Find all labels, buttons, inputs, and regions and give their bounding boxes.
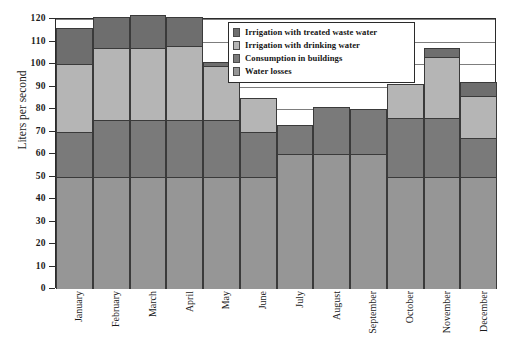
y-tick-label: 100 — [8, 58, 46, 68]
x-tick-label: June — [257, 291, 268, 309]
bar-segment[interactable] — [166, 17, 203, 46]
y-tick-label: 10 — [8, 261, 46, 271]
x-axis-labels: JanuaryFebruaryMarchAprilMayJuneJulyAugu… — [55, 289, 496, 349]
x-tick: March — [129, 289, 166, 349]
y-tick-label: 80 — [8, 103, 46, 113]
bar-segment[interactable] — [130, 15, 167, 49]
bar-segment[interactable] — [93, 177, 130, 290]
bar-segment[interactable] — [424, 57, 461, 118]
legend-item-label: Irrigation with drinking water — [245, 40, 360, 50]
x-tick-label: August — [331, 291, 342, 320]
legend-item[interactable]: Irrigation with treated waste water — [233, 26, 410, 38]
y-tick-label: 110 — [8, 36, 46, 46]
bar-segment[interactable] — [313, 107, 350, 154]
x-tick: October — [386, 289, 423, 349]
bar-segment[interactable] — [387, 118, 424, 177]
x-tick: December — [459, 289, 496, 349]
bar-segment[interactable] — [56, 64, 93, 132]
y-tick-label: 70 — [8, 126, 46, 136]
bar-column[interactable] — [424, 19, 461, 287]
x-tick: May — [202, 289, 239, 349]
x-tick: November — [423, 289, 460, 349]
bar-segment[interactable] — [93, 17, 130, 49]
legend-item-label: Water losses — [245, 66, 292, 76]
bar-segment[interactable] — [166, 46, 203, 120]
bar-segment[interactable] — [460, 138, 497, 176]
bar-segment[interactable] — [460, 96, 497, 139]
x-tick-label: January — [73, 291, 84, 322]
bar-segment[interactable] — [350, 109, 387, 154]
x-tick-label: December — [478, 291, 489, 332]
bar-segment[interactable] — [203, 177, 240, 290]
bar-segment[interactable] — [313, 154, 350, 289]
x-tick-label: November — [441, 291, 452, 333]
y-tick-label: 60 — [8, 148, 46, 158]
bar-segment[interactable] — [387, 84, 424, 118]
legend-item-label: Consumption in buildings — [245, 53, 342, 63]
bar-segment[interactable] — [93, 48, 130, 120]
y-tick-label: 120 — [8, 13, 46, 23]
x-tick-label: May — [220, 291, 231, 309]
legend-item[interactable]: Consumption in buildings — [233, 52, 410, 64]
bar-column[interactable] — [166, 19, 203, 287]
y-tick-label: 20 — [8, 238, 46, 248]
x-tick: August — [312, 289, 349, 349]
bar-segment[interactable] — [424, 48, 461, 57]
bar-segment[interactable] — [130, 177, 167, 290]
bar-segment[interactable] — [424, 118, 461, 177]
bar-segment[interactable] — [203, 120, 240, 176]
chart-legend: Irrigation with treated waste waterIrrig… — [228, 22, 415, 83]
bar-segment[interactable] — [240, 132, 277, 177]
bar-segment[interactable] — [56, 177, 93, 290]
x-tick-label: October — [404, 291, 415, 323]
bar-column[interactable] — [56, 19, 93, 287]
bar-column[interactable] — [460, 19, 497, 287]
bar-segment[interactable] — [93, 120, 130, 176]
bar-segment[interactable] — [350, 154, 387, 289]
x-tick-label: July — [294, 291, 305, 308]
bar-segment[interactable] — [56, 28, 93, 64]
x-tick: February — [92, 289, 129, 349]
bar-segment[interactable] — [460, 177, 497, 290]
stacked-bar-chart: Liters per second 0102030405060708090100… — [0, 0, 514, 349]
x-tick: July — [276, 289, 313, 349]
y-tick-label: 0 — [8, 283, 46, 293]
legend-swatch-icon — [233, 28, 240, 37]
x-tick-label: February — [110, 291, 121, 327]
bar-segment[interactable] — [166, 120, 203, 176]
bar-segment[interactable] — [240, 98, 277, 132]
bar-segment[interactable] — [460, 82, 497, 96]
bar-segment[interactable] — [277, 125, 314, 154]
x-tick: June — [239, 289, 276, 349]
x-tick-label: September — [367, 291, 378, 334]
bar-segment[interactable] — [166, 177, 203, 290]
legend-swatch-icon — [233, 54, 240, 63]
y-tick-label: 50 — [8, 171, 46, 181]
bar-column[interactable] — [93, 19, 130, 287]
y-tick-label: 30 — [8, 216, 46, 226]
y-tick-label: 90 — [8, 81, 46, 91]
y-tick-label: 40 — [8, 193, 46, 203]
bar-segment[interactable] — [424, 177, 461, 290]
bar-segment[interactable] — [130, 120, 167, 176]
x-tick-label: April — [184, 291, 195, 312]
legend-item[interactable]: Irrigation with drinking water — [233, 39, 410, 51]
legend-item-label: Irrigation with treated waste water — [245, 27, 377, 37]
x-tick: April — [165, 289, 202, 349]
legend-item[interactable]: Water losses — [233, 65, 410, 77]
bar-segment[interactable] — [240, 177, 277, 290]
bar-segment[interactable] — [277, 154, 314, 289]
legend-swatch-icon — [233, 67, 240, 76]
x-tick: January — [55, 289, 92, 349]
bar-column[interactable] — [130, 19, 167, 287]
x-tick: September — [349, 289, 386, 349]
bar-segment[interactable] — [130, 48, 167, 120]
bar-segment[interactable] — [56, 132, 93, 177]
x-tick-label: March — [147, 291, 158, 317]
bar-segment[interactable] — [387, 177, 424, 290]
legend-swatch-icon — [233, 41, 240, 50]
